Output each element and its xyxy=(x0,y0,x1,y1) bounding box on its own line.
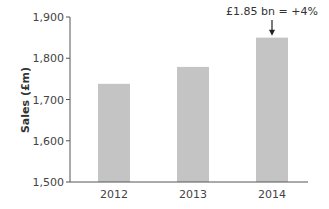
y-axis-label: Sales (£m) xyxy=(19,67,32,133)
bar-2013 xyxy=(177,67,209,182)
y-tick-label: 1,500 xyxy=(33,176,65,189)
y-tick-label: 1,900 xyxy=(33,11,65,24)
bar-2012 xyxy=(98,84,130,182)
x-axis-labels: 201220132014 xyxy=(100,188,286,201)
y-tick-label: 1,600 xyxy=(33,135,65,148)
bars xyxy=(98,38,288,182)
y-tick-label: 1,700 xyxy=(33,94,65,107)
annotation-text: £1.85 bn = +4% xyxy=(226,5,318,18)
x-tick-label: 2013 xyxy=(179,188,207,201)
y-axis-ticks: 1,5001,6001,7001,8001,900 xyxy=(33,11,71,189)
y-tick-label: 1,800 xyxy=(33,52,65,65)
arrowhead-icon xyxy=(269,30,275,36)
bar-2014 xyxy=(256,38,288,182)
annotation: £1.85 bn = +4% xyxy=(226,5,318,36)
x-tick-label: 2014 xyxy=(258,188,286,201)
bar-chart: 1,5001,6001,7001,8001,900 201220132014 S… xyxy=(0,0,329,209)
x-tick-label: 2012 xyxy=(100,188,128,201)
